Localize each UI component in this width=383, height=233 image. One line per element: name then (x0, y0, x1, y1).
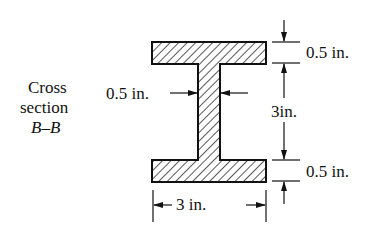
label-section: section (20, 99, 68, 117)
dim-flange-width: 3 in. (176, 196, 206, 214)
i-beam-section (152, 42, 266, 182)
diagram-canvas: Cross section B–B 0.5 in. 0.5 in. 3in. 0… (0, 0, 383, 233)
dim-bottom-flange: 0.5 in. (306, 163, 349, 181)
dim-top-flange: 0.5 in. (306, 44, 349, 62)
dim-web-height: 3in. (271, 103, 297, 121)
dim-web-thickness: 0.5 in. (106, 85, 149, 103)
label-cross: Cross (28, 79, 67, 97)
label-section-id: B–B (31, 119, 60, 137)
